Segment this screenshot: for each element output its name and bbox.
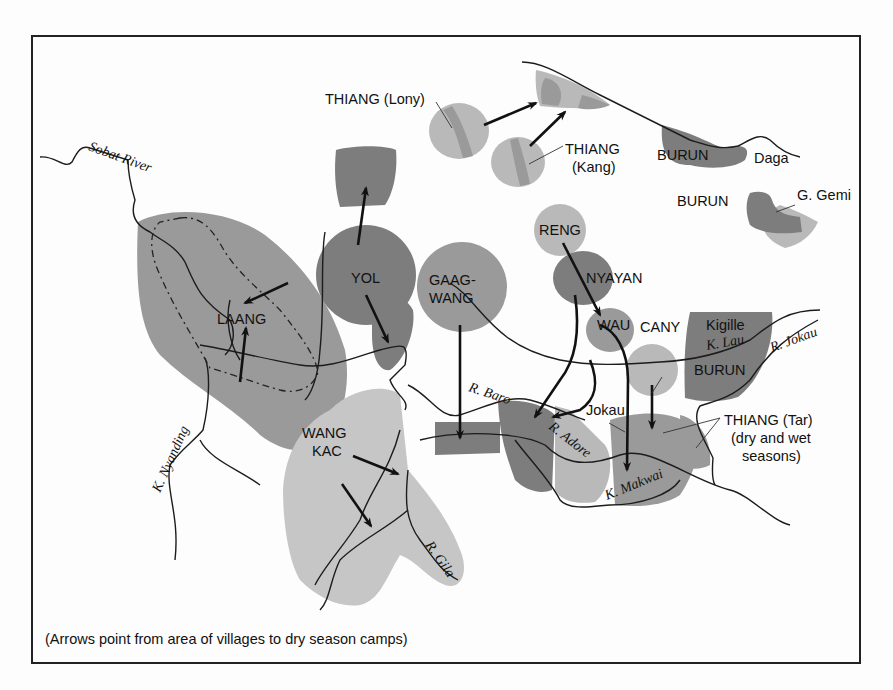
map-caption: (Arrows point from area of villages to d… [45, 631, 408, 647]
label-g-gemi: G. Gemi [797, 187, 851, 203]
label-burun-east: BURUN [694, 362, 746, 378]
label-laang: LAANG [217, 311, 266, 327]
region-thiang-lony [429, 103, 489, 159]
tribal-map: THIANG (Lony) THIANG (Kang) BURUN Daga B… [0, 0, 893, 690]
label-thiang-tar-3: seasons) [742, 448, 801, 464]
label-gaagwang-2: WANG [429, 290, 474, 306]
label-thiang-kang-sub: (Kang) [572, 159, 616, 175]
region-thiang-kang [491, 137, 545, 187]
label-kigille: Kigille [706, 317, 745, 333]
region-laang [137, 212, 347, 450]
label-burun-daga: BURUN [657, 147, 709, 163]
river-daga [522, 62, 800, 157]
label-gaagwang: GAAG- [429, 272, 476, 288]
label-thiang-tar: THIANG (Tar) [724, 412, 813, 428]
label-thiang-tar-2: (dry and wet [731, 430, 811, 446]
label-wang-kac: WANG [302, 425, 347, 441]
label-reng: RENG [539, 222, 581, 238]
label-thiang-lony: THIANG (Lony) [325, 91, 425, 107]
label-baro: R. Baro [466, 379, 513, 407]
label-yol: YOL [351, 270, 380, 286]
label-sobat-river: Sobat River [87, 139, 154, 176]
label-daga: Daga [754, 150, 790, 166]
label-nyayan: NYAYAN [586, 270, 642, 286]
label-cany: CANY [640, 319, 681, 335]
region-thiang-camp [536, 70, 610, 109]
label-jokau: Jokau [586, 402, 625, 418]
label-wau: WAU [597, 317, 630, 333]
label-wang-kac-2: KAC [312, 443, 342, 459]
label-burun-north: BURUN [677, 193, 729, 209]
label-thiang-kang: THIANG [565, 141, 620, 157]
label-jokau-river: R. Jokau [767, 324, 819, 355]
